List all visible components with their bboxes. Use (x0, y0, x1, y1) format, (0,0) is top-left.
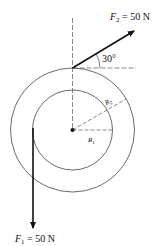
center-point (71, 128, 75, 132)
angle-arc (96, 54, 100, 68)
r2-radius-line (73, 99, 127, 130)
r1-label: R1 (87, 136, 95, 145)
angle-label: 30° (102, 53, 116, 64)
f2-label: F2 = 50 N (109, 11, 150, 24)
f1-label: F1 = 50 N (14, 233, 55, 246)
force-diagram: F2 = 50 N 30° R2 R1 F1 = 50 N (0, 0, 158, 246)
